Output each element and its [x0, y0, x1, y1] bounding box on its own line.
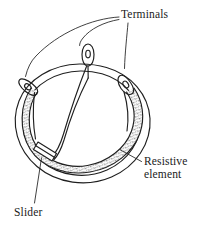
terminal-left-internal-lead	[33, 93, 35, 140]
leader-terminals-to-right-lug	[125, 23, 129, 69]
label-resistive-element: Resistiveelement	[144, 155, 188, 181]
wiper-arm-outer	[54, 78, 88, 160]
terminal-lug-top	[82, 44, 94, 66]
potentiometer-drawing	[0, 0, 202, 226]
label-terminals: Terminals	[121, 8, 168, 21]
label-resistive-line-1: Resistive	[144, 155, 188, 167]
label-slider: Slider	[14, 206, 42, 219]
potentiometer-figure: Terminals Resistiveelement Slider	[0, 0, 202, 226]
resistive-element-outer-edge	[22, 88, 143, 173]
diagram-ink-group	[14, 17, 150, 203]
terminal-lug-right-eyelet	[122, 80, 130, 89]
terminal-right-internal-lead	[124, 92, 128, 131]
leader-terminals-to-top-lug	[80, 20, 119, 46]
wiper-arm-inner	[52, 67, 87, 158]
label-resistive-line-2: element	[144, 168, 181, 180]
terminal-lug-top-eyelet	[86, 50, 91, 58]
